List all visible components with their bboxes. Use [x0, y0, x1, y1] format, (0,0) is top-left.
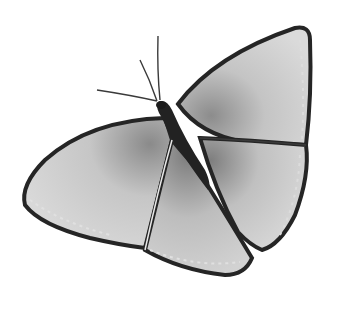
butterfly-head — [156, 101, 166, 109]
butterfly-illustration — [0, 0, 337, 310]
wing-upper-right — [178, 28, 311, 146]
antenna-left — [97, 60, 157, 101]
antenna-upper — [158, 36, 160, 100]
